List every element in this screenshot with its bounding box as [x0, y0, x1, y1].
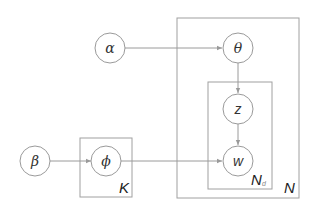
- plate-N-label: N: [284, 179, 295, 196]
- lda-plate-diagram: α θ z w β ϕ K N d N: [0, 0, 315, 209]
- node-phi: ϕ: [91, 146, 121, 176]
- node-theta-label: θ: [234, 40, 243, 56]
- node-z-label: z: [234, 101, 242, 117]
- node-w: w: [223, 146, 253, 176]
- node-beta-label: β: [30, 153, 39, 169]
- plate-Nd-label: N: [251, 171, 262, 188]
- node-beta: β: [20, 146, 50, 176]
- node-z: z: [223, 94, 253, 124]
- plate-Nd-subscript: d: [262, 180, 267, 187]
- node-theta: θ: [223, 33, 253, 63]
- plate-K-label: K: [119, 179, 130, 196]
- node-alpha-label: α: [105, 40, 115, 56]
- node-w-label: w: [233, 153, 244, 169]
- node-phi-label: ϕ: [101, 153, 111, 169]
- node-alpha: α: [95, 33, 125, 63]
